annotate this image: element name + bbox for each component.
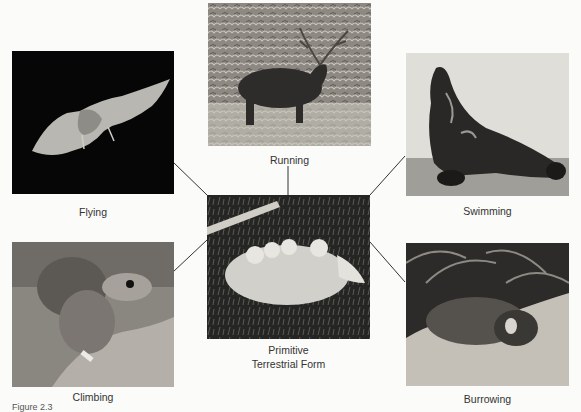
primitive-terrestrial-label: Primitive Terrestrial Form <box>207 343 370 371</box>
flying-photo <box>12 51 174 194</box>
running-label: Running <box>208 153 371 167</box>
burrowing-photo <box>406 243 569 386</box>
bat-image-icon <box>12 51 174 194</box>
figure-caption: Figure 2.3 <box>12 402 53 412</box>
flying-label: Flying <box>12 205 174 219</box>
squirrel-image-icon <box>12 242 174 387</box>
deer-image-icon <box>208 3 371 146</box>
running-photo <box>208 3 371 146</box>
opossum-image-icon <box>207 195 370 339</box>
sea-lion-image-icon <box>406 53 569 196</box>
center-label-line-1: Primitive <box>207 343 370 357</box>
climbing-photo <box>12 242 174 387</box>
swimming-photo <box>406 53 569 196</box>
center-label-line-2: Terrestrial Form <box>207 357 370 371</box>
mole-image-icon <box>406 243 569 386</box>
swimming-label: Swimming <box>406 204 569 218</box>
burrowing-label: Burrowing <box>406 392 569 406</box>
primitive-terrestrial-photo <box>207 195 370 339</box>
